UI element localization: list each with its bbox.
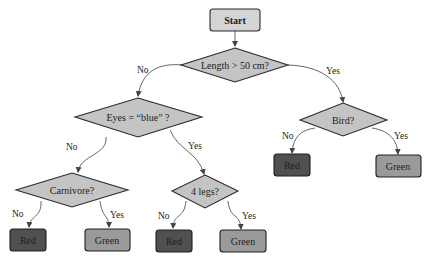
edge-label-legs-yes: Yes [242,211,256,221]
edge-label-eyes-yes: Yes [188,141,202,151]
leaf-bird-yes: Green [376,155,421,177]
leaf-carnivore-no: Red [10,229,46,251]
edge-label-bird-yes: Yes [394,131,408,141]
decision-carnivore-label: Carnivore? [50,185,95,196]
decision-length: Length > 50 cm? [181,48,288,82]
leaf-legs-yes: Green [220,230,266,252]
decision-bird: Bird? [300,103,387,136]
decision-length-label: Length > 50 cm? [201,60,270,71]
edge-label-eyes-no: No [66,142,78,152]
edge-label-length-no: No [137,65,149,75]
start-node: Start [210,9,260,31]
edge-bird-no [292,128,315,153]
leaf-legs-no-label: Red [166,236,182,247]
edge-eyes-yes [170,130,204,174]
leaf-bird-no: Red [274,154,310,176]
edge-label-bird-no: No [282,131,294,141]
leaf-carnivore-yes: Green [85,229,130,251]
leaf-legs-no: Red [156,230,192,252]
decision-tree-diagram: No Yes No Yes No Yes No Yes No Yes Start… [0,0,427,267]
start-label: Start [224,15,246,26]
edge-label-length-yes: Yes [326,66,340,76]
leaf-bird-no-label: Red [284,160,300,171]
decision-legs-label: 4 legs? [191,186,220,197]
leaf-carnivore-yes-label: Green [95,235,119,246]
edge-eyes-no [78,137,106,172]
leaf-legs-yes-label: Green [231,236,255,247]
edge-label-carn-no: No [12,209,24,219]
edge-label-carn-yes: Yes [110,210,124,220]
edge-label-legs-no: No [158,211,170,221]
decision-bird-label: Bird? [332,115,355,126]
edge-legs-yes [228,201,241,229]
leaf-bird-yes-label: Green [386,161,410,172]
decision-carnivore: Carnivore? [16,173,128,207]
edge-legs-no [173,201,186,228]
decision-eyes: Eyes = “blue” ? [75,98,202,137]
edge-carn-yes [100,201,109,227]
edge-carn-no [29,201,41,227]
leaf-carnivore-no-label: Red [20,235,36,246]
decision-eyes-label: Eyes = “blue” ? [106,112,170,123]
